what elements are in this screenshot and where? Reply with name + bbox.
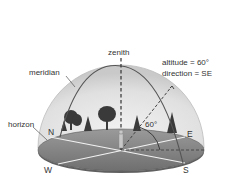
zenith-label: zenith	[108, 48, 129, 57]
altitude-label: altitude = 60°	[162, 58, 209, 67]
celestial-sphere-diagram: zenith meridian altitude = 60° direction…	[0, 0, 228, 185]
dome-illustration	[0, 0, 228, 185]
compass-east: E	[187, 130, 193, 139]
observer-figure	[119, 130, 123, 148]
angle-label: 60°	[145, 120, 157, 129]
meridian-label: meridian	[29, 68, 60, 77]
direction-label: direction = SE	[162, 69, 212, 78]
horizon-label: horizon	[8, 120, 34, 129]
compass-west: W	[44, 166, 52, 175]
compass-north: N	[48, 128, 54, 137]
compass-south: S	[183, 166, 189, 175]
